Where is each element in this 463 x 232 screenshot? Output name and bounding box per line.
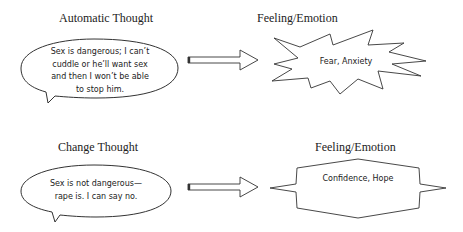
automatic-thought-text: Sex is dangerous; I can’t cuddle or he’l… [40, 46, 160, 96]
arrow-top [188, 50, 258, 70]
thought-line: cuddle or he’ll want sex [40, 59, 160, 72]
block-right-arrow-icon [188, 177, 258, 197]
change-thought-text: Sex is not dangerous— rape is. I can say… [36, 178, 156, 203]
arrow-bottom [188, 177, 258, 197]
thought-line: rape is. I can say no. [36, 191, 156, 204]
confidence-hope-star-shape [270, 159, 446, 218]
thought-line: Sex is dangerous; I can’t [40, 46, 160, 59]
thought-line: to stop him. [40, 84, 160, 97]
fear-anxiety-label: Fear, Anxiety [316, 57, 376, 66]
block-right-arrow-icon [188, 50, 258, 70]
thought-line: and then I won’t be able [40, 71, 160, 84]
thought-line: Sex is not dangerous— [36, 178, 156, 191]
confidence-hope-label: Confidence, Hope [318, 174, 398, 183]
